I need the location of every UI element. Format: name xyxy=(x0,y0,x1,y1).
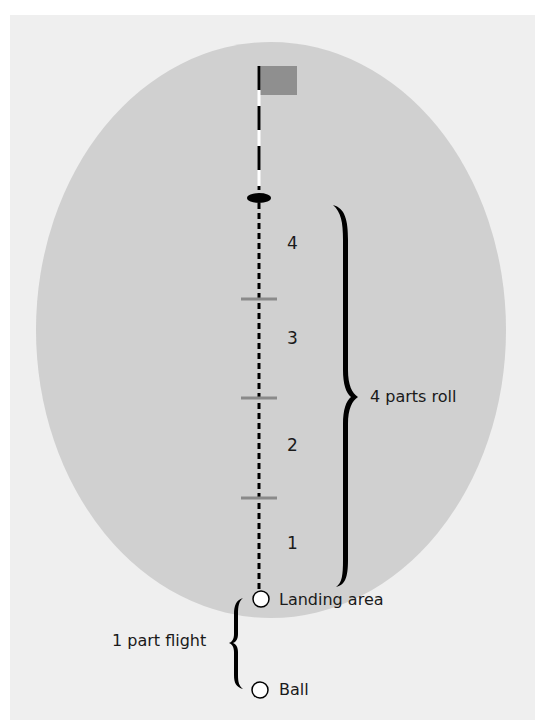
landing-area-label: Landing area xyxy=(279,592,384,608)
golf-roll-diagram xyxy=(0,0,540,720)
flight-label: 1 part flight xyxy=(112,633,206,649)
segment-label-4: 4 xyxy=(287,235,298,252)
roll-label: 4 parts roll xyxy=(370,389,456,405)
segment-label-1: 1 xyxy=(287,535,298,552)
ball-label: Ball xyxy=(279,682,309,698)
segment-label-2: 2 xyxy=(287,437,298,454)
landing-ball-icon xyxy=(253,591,269,607)
hole-icon xyxy=(247,193,271,203)
ball-icon xyxy=(252,682,268,698)
segment-label-3: 3 xyxy=(287,330,298,347)
putting-green xyxy=(36,42,506,618)
